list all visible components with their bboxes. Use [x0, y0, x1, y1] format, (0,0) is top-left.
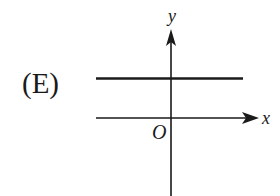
- option-label: (E): [22, 67, 59, 100]
- y-axis: y: [166, 6, 176, 196]
- origin-label: O: [152, 121, 166, 143]
- x-axis-label: x: [261, 108, 270, 128]
- graph-figure: (E) y x O: [0, 0, 280, 196]
- x-axis: x: [96, 108, 270, 128]
- y-axis-label: y: [166, 6, 176, 26]
